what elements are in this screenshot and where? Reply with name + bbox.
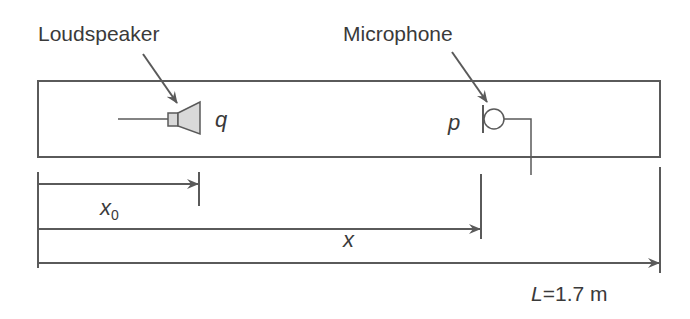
loudspeaker-icon [118, 102, 200, 134]
loudspeaker-label: Loudspeaker [38, 22, 159, 45]
pressure-symbol-p: p [447, 110, 460, 135]
microphone-icon [483, 105, 531, 175]
source-symbol-q: q [215, 107, 228, 132]
loudspeaker-pointer-arrow [143, 54, 177, 103]
x-label: x [342, 227, 355, 252]
length-label: L=1.7 m [531, 282, 607, 305]
microphone-label: Microphone [343, 22, 453, 45]
x0-label: x0 [99, 195, 119, 223]
tube-diagram: Loudspeaker q Microphone p x0 x L=1.7 m [0, 0, 690, 319]
microphone-pointer-arrow [452, 52, 487, 102]
